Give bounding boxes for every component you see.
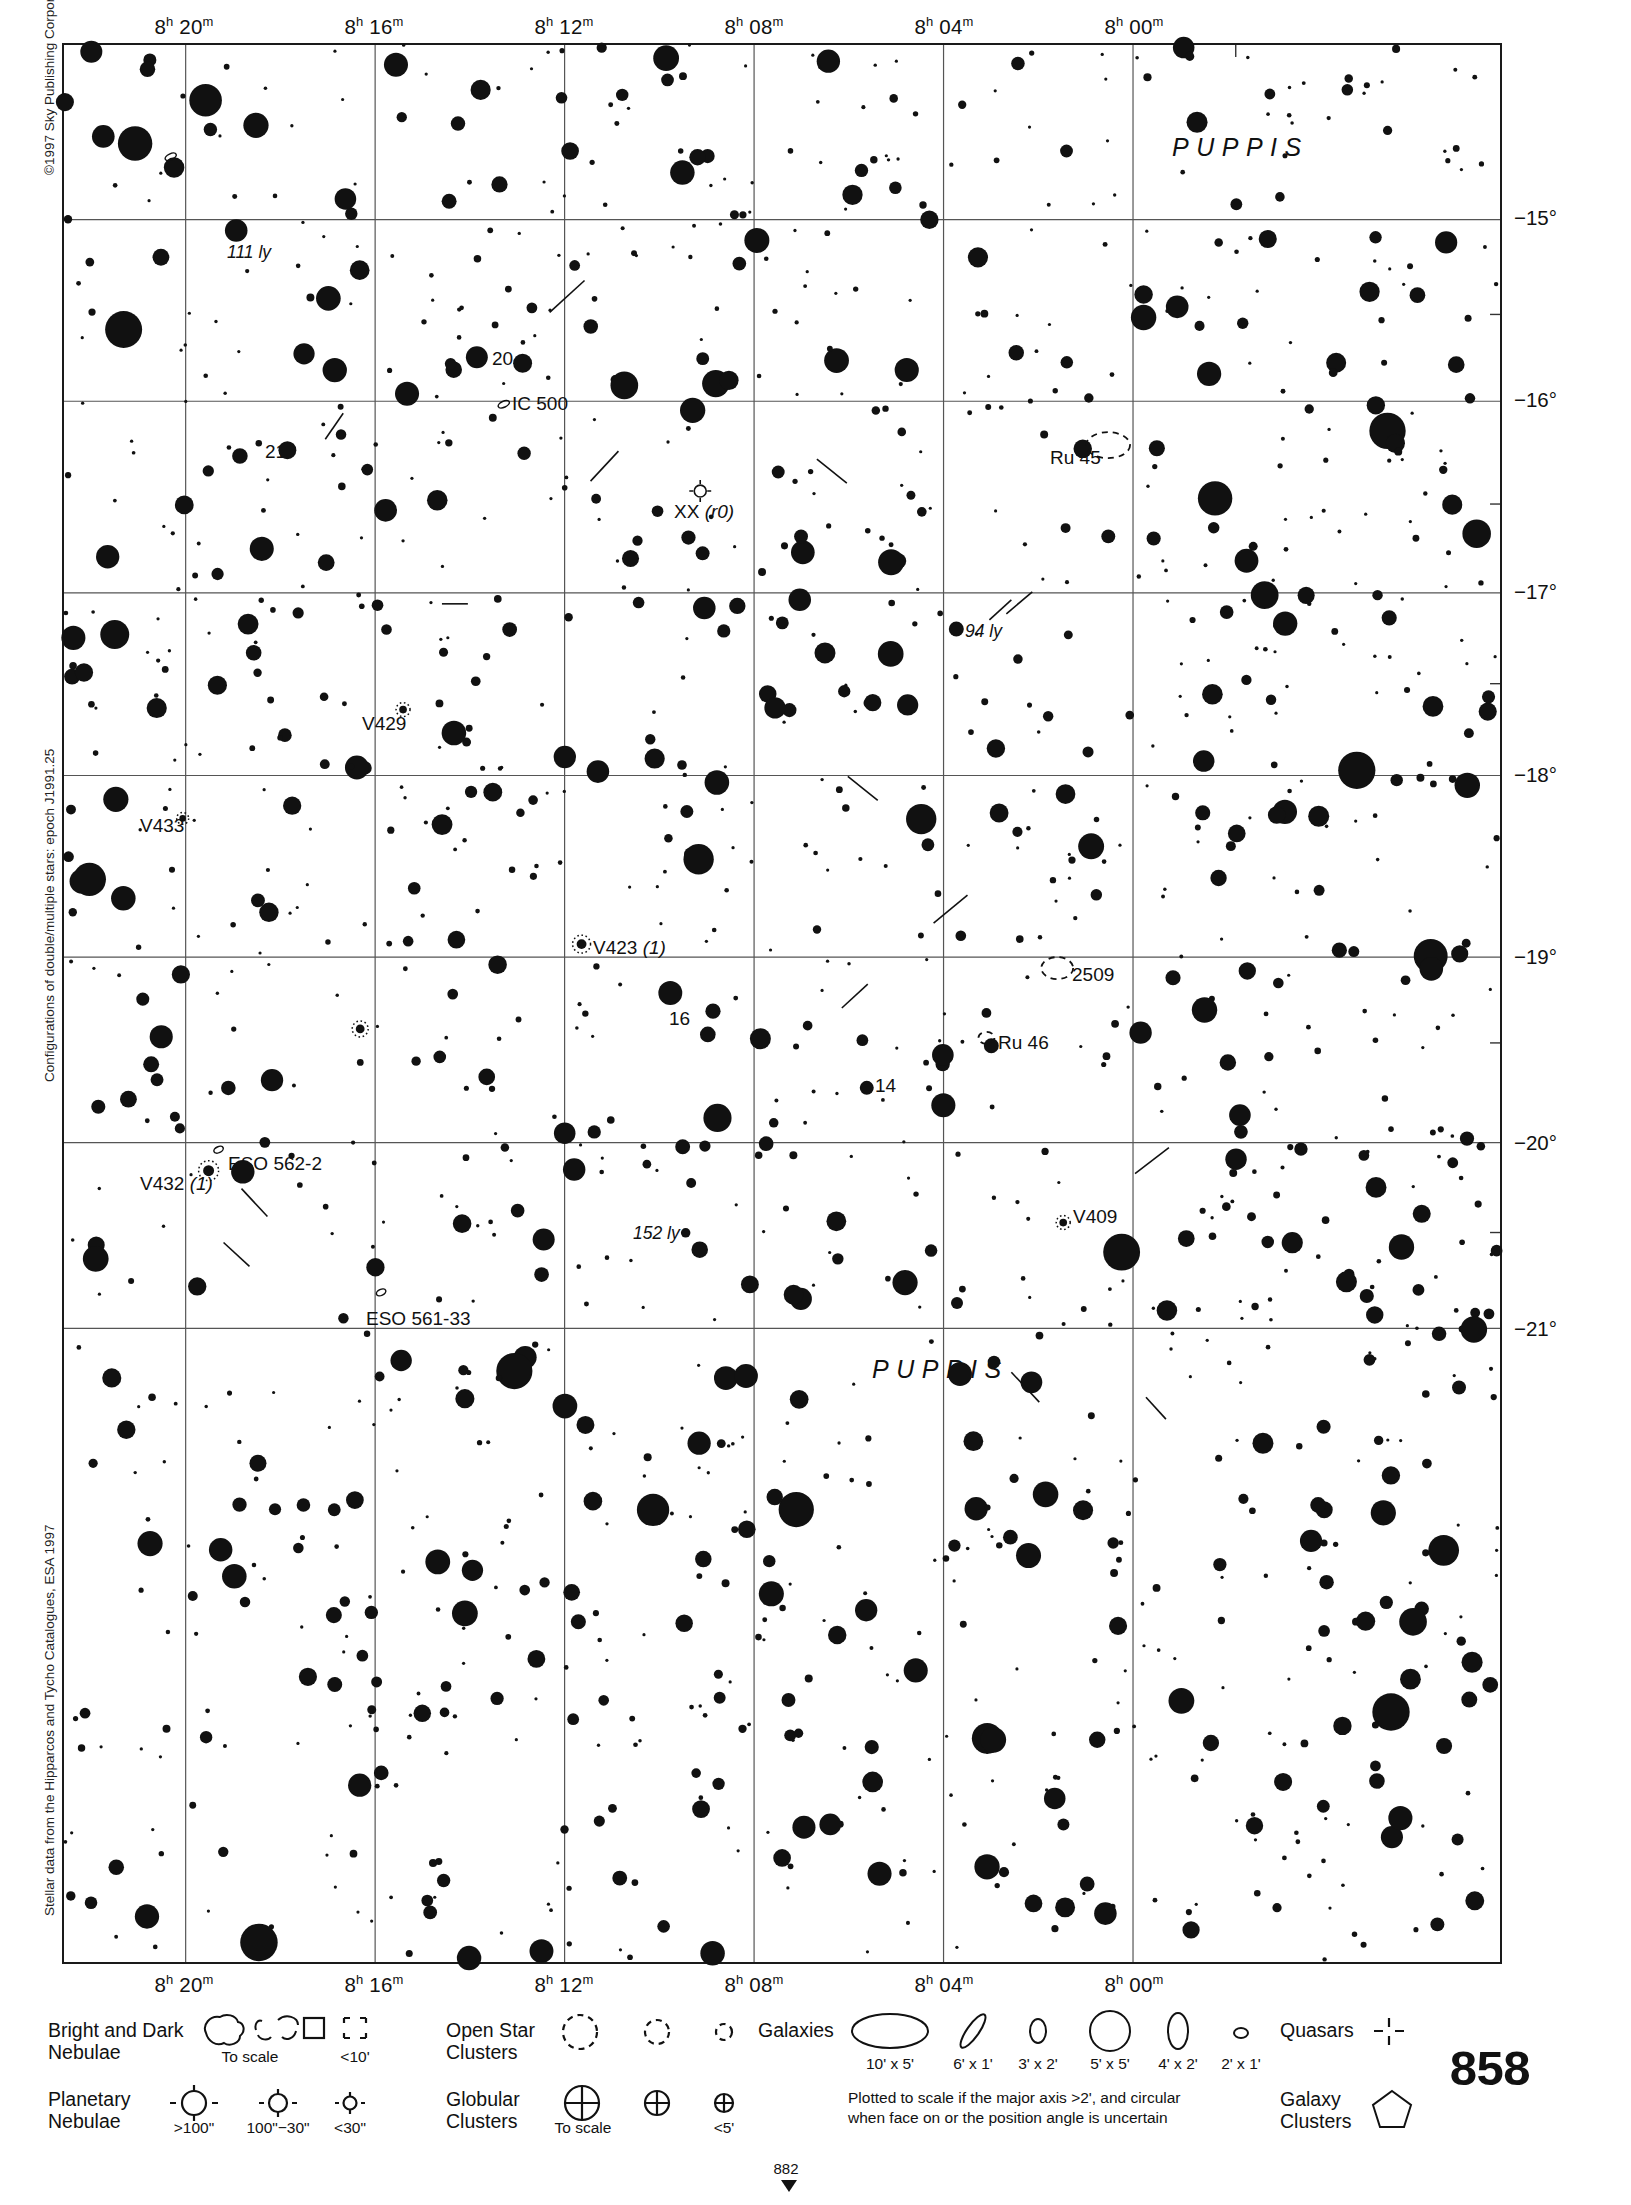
object-label: 14 [875,1075,896,1097]
page-number: 858 [1450,2040,1530,2096]
object-label: V432 (1) [140,1173,213,1195]
galaxy-cluster-pentagon-icon [1370,2087,1420,2131]
object-label: ESO 561-33 [366,1308,471,1330]
ra-tick-label: 8h 20m [154,14,213,39]
dec-tick-label: −18° [1514,763,1557,787]
legend-open-star-clusters-title: Open Star Clusters [446,2019,535,2063]
dec-tick-label: −15° [1514,206,1557,230]
planetary-nebula-icons [160,2083,410,2123]
object-label: ESO 562-2 [228,1153,322,1175]
data-source-caption: Stellar data from the Hipparcos and Tych… [42,1525,57,1917]
object-label: 2509 [1072,964,1114,986]
continuation-chart-number: 882 [773,2160,798,2177]
legend-line-2: Nebulae [48,2041,121,2063]
legend-nebula-small-size: <10' [340,2048,369,2066]
object-label: Ru 46 [998,1032,1049,1054]
object-label: 111 ly [227,242,271,263]
legend-galaxy-size-2: 6' x 1' [953,2055,993,2073]
legend-planetary-size-2: 100"−30" [246,2119,309,2137]
object-label: IC 500 [512,393,568,415]
constellation-label: PUPPIS [1172,133,1309,162]
ra-tick-label: 8h 16m [344,14,403,39]
ra-tick-label: 8h 12m [534,1972,593,1997]
legend-line-1: Globular [446,2088,520,2110]
ra-tick-label: 8h 12m [534,14,593,39]
legend-galaxy-size-1: 10' x 5' [866,2055,914,2073]
ra-axis-top: 8h 20m8h 16m8h 12m8h 08m8h 04m8h 00m [0,14,1631,42]
legend-line-1: Galaxy [1280,2088,1341,2110]
ra-tick-label: 8h 20m [154,1972,213,1997]
legend-line-2: Nebulae [48,2110,121,2132]
legend-nebula-to-scale: To scale [222,2048,279,2066]
object-label: V423 (1) [593,937,666,959]
object-label: 94 ly [965,621,1002,642]
ra-tick-label: 8h 16m [344,1972,403,1997]
open-cluster-icons [552,2011,772,2053]
object-label: 16 [669,1008,690,1030]
dec-tick-label: −17° [1514,580,1557,604]
object-label: V433 [140,815,184,837]
legend-line-2: Clusters [446,2110,518,2132]
dec-tick-label: −21° [1514,1317,1557,1341]
legend-globular-small-size: <5' [714,2119,735,2137]
object-label: Ru 45 [1050,447,1101,469]
ra-tick-label: 8h 00m [1104,1972,1163,1997]
chart-legend: Bright and Dark Nebulae To scale <10' [0,1995,1631,2205]
legend-galaxy-size-3: 3' x 2' [1018,2055,1058,2073]
legend-line-2: Clusters [1280,2110,1352,2132]
legend-line-1: Bright and Dark [48,2019,183,2041]
legend-galaxy-size-5: 4' x 2' [1158,2055,1198,2073]
map-label-overlay: PUPPISPUPPIS111 ly20IC 50021Ru 45XX (r0)… [62,43,1502,1964]
legend-quasars-title: Quasars [1280,2019,1354,2041]
quasar-icon [1372,2015,1412,2049]
object-label: XX (r0) [674,501,734,523]
object-label: V409 [1073,1206,1117,1228]
dec-tick-label: −16° [1514,388,1557,412]
legend-planetary-size-1: >100" [174,2119,214,2137]
object-label: 152 ly [633,1223,680,1244]
ra-tick-label: 8h 04m [914,1972,973,1997]
star-chart-page: 8h 20m8h 16m8h 12m8h 08m8h 04m8h 00m 8h … [0,0,1631,2205]
legend-planetary-size-3: <30" [334,2119,366,2137]
legend-galaxy-note-line-2: when face on or the position angle is un… [848,2108,1168,2128]
copyright-caption: ©1997 Sky Publishing Corporation [42,0,57,175]
legend-line-2: Clusters [446,2041,518,2063]
galaxy-shape-icons [848,2009,1248,2053]
ra-tick-label: 8h 00m [1104,14,1163,39]
legend-galaxy-note-line-1: Plotted to scale if the major axis >2', … [848,2088,1181,2108]
ra-tick-label: 8h 08m [724,1972,783,1997]
legend-galaxy-size-6: 2' x 1' [1221,2055,1261,2073]
legend-bright-dark-nebulae-title: Bright and Dark Nebulae [48,2019,183,2063]
legend-planetary-nebulae-title: Planetary Nebulae [48,2088,130,2132]
legend-galaxy-size-4: 5' x 5' [1090,2055,1130,2073]
object-label: 21 [265,441,286,463]
dec-tick-label: −20° [1514,1131,1557,1155]
configurations-caption: Configurations of double/multiple stars:… [42,749,57,1082]
legend-galaxy-clusters-title: Galaxy Clusters [1280,2088,1352,2132]
object-label: V429 [362,713,406,735]
ra-tick-label: 8h 04m [914,14,973,39]
legend-globular-to-scale: To scale [555,2119,612,2137]
legend-line-1: Planetary [48,2088,130,2110]
dec-tick-label: −19° [1514,945,1557,969]
nebula-small-icons [300,2013,390,2047]
ra-tick-label: 8h 08m [724,14,783,39]
legend-globular-clusters-title: Globular Clusters [446,2088,520,2132]
constellation-label: PUPPIS [872,1355,1009,1384]
legend-galaxies-title: Galaxies [758,2019,834,2041]
legend-line-1: Open Star [446,2019,535,2041]
object-label: 20 [492,348,513,370]
continuation-arrow-icon [779,2178,799,2194]
